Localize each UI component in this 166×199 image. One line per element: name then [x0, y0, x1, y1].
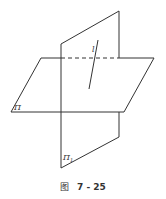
label-plane-horizontal: Π: [13, 103, 22, 112]
caption-number: 7 - 25: [77, 182, 106, 192]
label-line-l: l: [92, 45, 95, 54]
diagram-canvas: l Π Π1: [0, 0, 166, 199]
vertical-plane-upper: [61, 11, 119, 58]
figure-caption: 图7 - 25: [0, 180, 166, 193]
horizontal-plane-right-edge: [124, 58, 154, 112]
label-plane-vertical: Π1: [62, 153, 73, 163]
caption-prefix: 图: [60, 182, 69, 192]
